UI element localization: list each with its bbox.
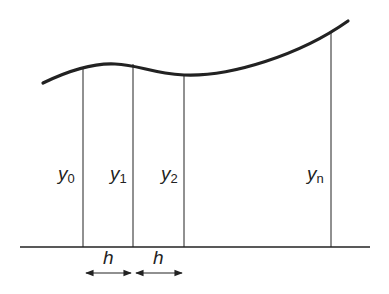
label-y1: y1 (108, 163, 127, 186)
function-curve (43, 21, 348, 83)
trapezoid-rule-diagram: y0 y1 y2 yn h h (0, 0, 389, 294)
label-yn: yn (305, 163, 324, 186)
label-y2: y2 (159, 163, 178, 186)
spacing-label-2: h (153, 247, 164, 268)
spacing-label-1: h (103, 247, 114, 268)
label-y0: y0 (56, 163, 75, 186)
